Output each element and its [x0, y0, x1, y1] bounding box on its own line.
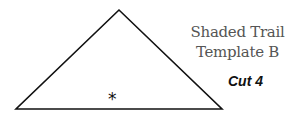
template-title: Shaded Trail Template B — [186, 22, 289, 62]
grain-marker-asterisk: * — [108, 91, 117, 108]
template-title-line1: Shaded Trail — [186, 22, 289, 42]
template-title-line2: Template B — [186, 42, 289, 62]
cut-count-label: Cut 4 — [228, 73, 263, 89]
